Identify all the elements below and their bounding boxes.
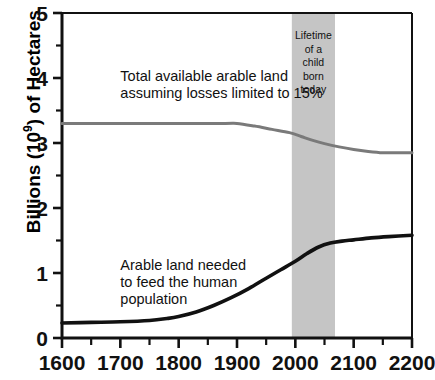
x-tick-label: 1600 — [39, 351, 86, 374]
y-tick-label: 2 — [36, 197, 48, 220]
y-tick-label: 1 — [36, 262, 48, 285]
x-tick-label: 1900 — [214, 351, 261, 374]
annotation-line: to feed the human — [120, 274, 237, 290]
band-label-line: Lifetime — [295, 29, 332, 41]
y-tick-label: 3 — [36, 132, 48, 155]
axis-tick-labels: 0123451600170018001900200021002200 — [36, 2, 435, 375]
annotation-line: population — [120, 291, 187, 307]
x-tick-label: 1800 — [155, 351, 202, 374]
x-tick-label: 2100 — [330, 351, 377, 374]
series-line-available-arable-land — [62, 123, 412, 153]
band-label-line: of a — [305, 43, 323, 55]
chart-plot-area: 0123451600170018001900200021002200 Total… — [0, 0, 435, 380]
band-label-line: today — [301, 83, 327, 95]
y-tick-label: 5 — [36, 2, 48, 25]
annotation-line: Arable land needed — [120, 257, 246, 273]
x-tick-label: 1700 — [97, 351, 144, 374]
annotation-line: assuming losses limited to 15% — [120, 85, 322, 101]
annotation-line: Total available arable land — [120, 68, 288, 84]
y-tick-label: 4 — [36, 67, 48, 90]
band-label-line: child — [303, 56, 325, 68]
band-label-line: born — [303, 70, 324, 82]
x-tick-label: 2200 — [389, 351, 435, 374]
data-series-group — [62, 123, 412, 323]
x-tick-label: 2000 — [272, 351, 319, 374]
chart-root: Billions (109) of Hectares 0123451600170… — [0, 0, 435, 380]
y-tick-label: 0 — [36, 327, 48, 350]
